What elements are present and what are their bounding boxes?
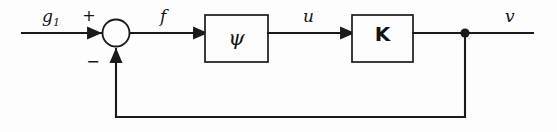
label-input-signal: g [42, 6, 53, 26]
label-input-subscript: 1 [53, 16, 60, 29]
block-diagram-canvas: ψ K g 1 f u v + − [0, 0, 557, 132]
block-diagram-svg: ψ K g 1 f u v + − [0, 0, 557, 132]
label-error-signal: f [158, 6, 169, 26]
block-psi-label: ψ [228, 26, 245, 50]
label-control-signal: u [303, 6, 314, 26]
block-gain-label: K [375, 22, 392, 46]
label-output-signal: v [505, 6, 515, 26]
label-sum-minus: − [86, 52, 99, 71]
label-sum-plus: + [82, 6, 95, 25]
summing-junction [103, 20, 130, 47]
